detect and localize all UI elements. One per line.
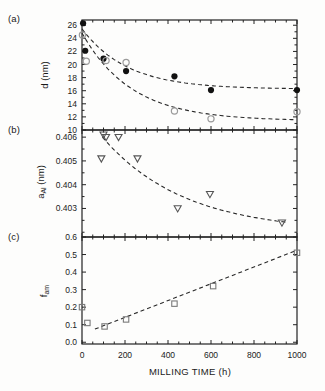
data-point-filled-circle (171, 73, 177, 79)
data-point-open-triangle (134, 156, 141, 162)
y-axis-title-b-unit: (nm) (35, 165, 46, 187)
data-point-open-circle (171, 108, 177, 114)
y-axis-title-a-unit: (nm) (39, 61, 50, 83)
y-tick-label: 22 (68, 46, 78, 56)
y-tick-label: 14 (68, 99, 78, 109)
y-tick-label: 0.403 (56, 203, 78, 213)
data-point-open-triangle (98, 156, 105, 162)
y-tick-label: 16 (68, 86, 78, 96)
data-point-filled-circle (294, 87, 300, 93)
data-point-open-square (172, 301, 177, 306)
fit-curve (82, 33, 295, 120)
x-tick-label: 1000 (288, 350, 307, 360)
y-axis-title-a-main: d (39, 83, 50, 88)
x-tick-label: 200 (118, 350, 132, 360)
data-point-open-circle (123, 59, 129, 65)
y-tick-label: 12 (68, 112, 78, 122)
panel-label-b: (b) (8, 124, 20, 135)
y-tick-label: 0.5 (65, 250, 77, 260)
panel-c-frame (82, 237, 297, 344)
y-tick-label: 0.4 (65, 267, 77, 277)
data-point-open-triangle (115, 134, 122, 140)
data-point-filled-circle (80, 20, 86, 26)
fit-curve (102, 137, 286, 222)
fit-curve (82, 29, 295, 89)
panel-label-c: (c) (8, 231, 20, 242)
data-point-open-triangle (278, 220, 285, 226)
data-point-open-circle (208, 116, 214, 122)
y-tick-label: 0.0 (65, 337, 77, 347)
y-tick-label: 18 (68, 73, 78, 83)
y-tick-label: 0.2 (65, 302, 77, 312)
y-tick-label: 20 (68, 60, 78, 70)
y-tick-label: 0.6 (65, 232, 77, 242)
y-axis-title-b-main: a (35, 194, 46, 199)
y-tick-label: 24 (68, 33, 78, 43)
data-point-open-square (210, 283, 215, 288)
milling-time-figure: 2624222018161412100.4060.4050.4040.4030.… (0, 0, 325, 391)
data-point-open-triangle (174, 206, 181, 212)
y-axis-title-c: fam (38, 285, 51, 297)
panel-label-a: (a) (8, 13, 20, 24)
data-point-filled-circle (82, 48, 88, 54)
data-point-filled-circle (208, 87, 214, 93)
y-tick-label: 26 (68, 20, 78, 30)
y-axis-title-a: d (nm) (39, 61, 52, 88)
y-axis-title-b: aAl (nm) (35, 165, 48, 199)
y-tick-label: 0.405 (56, 156, 78, 166)
y-tick-label: 0.404 (56, 180, 78, 190)
panel-a-frame (82, 20, 297, 130)
data-point-open-triangle (206, 192, 213, 198)
y-axis-title-c-main: f (38, 295, 49, 298)
y-tick-label: 0.1 (65, 320, 77, 330)
x-tick-label: 600 (204, 350, 218, 360)
panel-b-frame (82, 130, 297, 237)
y-tick-label: 0.406 (56, 132, 78, 142)
data-point-filled-circle (123, 68, 129, 74)
y-axis-title-b-sub: Al (40, 187, 47, 193)
y-axis-title-c-sub: am (43, 285, 50, 295)
x-axis-title: MILLING TIME (h) (149, 366, 231, 377)
x-tick-label: 400 (161, 350, 175, 360)
x-tick-label: 800 (247, 350, 261, 360)
x-tick-label: 0 (80, 350, 85, 360)
data-point-open-circle (83, 58, 89, 64)
chart-canvas: 2624222018161412100.4060.4050.4040.4030.… (0, 0, 325, 391)
y-tick-label: 0.3 (65, 285, 77, 295)
